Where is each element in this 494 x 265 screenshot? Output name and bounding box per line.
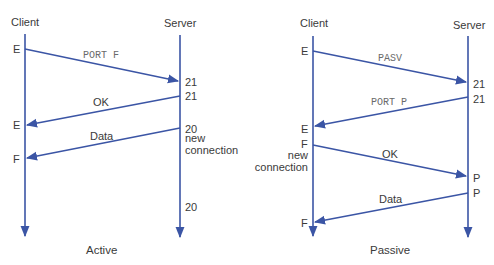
- active-server-note-connection: connection: [185, 144, 238, 156]
- passive-client-port-f2: F: [301, 217, 308, 229]
- passive-server-port-21b: 21: [473, 93, 485, 105]
- passive-caption: Passive: [370, 244, 410, 256]
- passive-server-port-p2: P: [473, 187, 480, 199]
- active-client-port-e1: E: [13, 43, 20, 55]
- passive-server-label: Server: [453, 19, 485, 31]
- passive-client-port-e2: E: [301, 123, 308, 135]
- passive-msg-port-p: PORT P: [371, 97, 407, 109]
- active-msg-ok: OK: [93, 96, 109, 108]
- passive-client-label: Client: [300, 17, 328, 29]
- passive-server-port-21a: 21: [473, 78, 485, 90]
- passive-msg-ok: OK: [382, 148, 398, 160]
- active-server-port-20b: 20: [185, 201, 197, 213]
- passive-msg-data: Data: [379, 193, 402, 205]
- passive-client-note-connection: connection: [250, 161, 308, 173]
- active-caption: Active: [86, 244, 117, 256]
- active-msg-port-f: PORT F: [83, 50, 119, 62]
- active-server-port-21b: 21: [185, 90, 197, 102]
- active-msg-data: Data: [90, 130, 113, 142]
- active-server-label: Server: [164, 17, 196, 29]
- active-server-note-new: new: [185, 132, 205, 144]
- active-server-port-21a: 21: [185, 76, 197, 88]
- passive-client-note-new: new: [260, 149, 308, 161]
- passive-msg-pasv: PASV: [378, 53, 402, 65]
- active-client-port-f: F: [13, 153, 20, 165]
- active-client-port-e2: E: [13, 119, 20, 131]
- passive-server-port-p1: P: [473, 172, 480, 184]
- active-client-label: Client: [11, 16, 39, 28]
- sequence-diagram-lines: [0, 0, 494, 265]
- passive-client-port-e1: E: [301, 45, 308, 57]
